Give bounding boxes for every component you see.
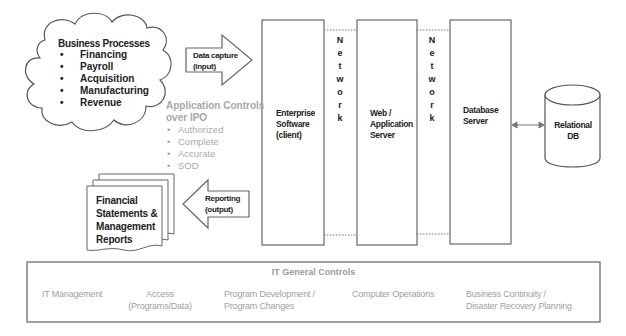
network-letter: t: [334, 60, 346, 73]
relational-db-label: Relational DB: [545, 120, 601, 142]
reports-line: Reports: [96, 233, 158, 246]
network-letter: w: [334, 73, 346, 86]
list-item: Payroll: [58, 61, 150, 73]
business-processes-list: Financing Payroll Acquisition Manufactur…: [58, 49, 150, 109]
reports-label: Financial Statements & Management Report…: [96, 194, 158, 246]
database-server-box: [450, 20, 511, 244]
application-controls: Application Controls over IPO Authorized…: [166, 100, 264, 172]
list-item: Revenue: [58, 97, 150, 109]
network-label-2: N e t w o r k: [426, 34, 438, 125]
tier-label-line: (client): [276, 130, 315, 141]
itgc-item-line: Access: [120, 288, 200, 300]
enterprise-software-label: Enterprise Software (client): [276, 108, 315, 141]
tier-label-line: Web /: [370, 108, 413, 119]
network-letter: k: [426, 112, 438, 125]
itgc-item-program-development: Program Development / Program Changes: [224, 288, 315, 312]
db-label-line: DB: [545, 131, 601, 142]
business-processes-title: Business Processes: [58, 38, 150, 49]
itgc-item-line: Business Continuity /: [466, 288, 572, 300]
network-letter: o: [426, 86, 438, 99]
reports-line: Statements &: [96, 207, 158, 220]
reports-line: Financial: [96, 194, 158, 207]
network-letter: N: [334, 34, 346, 47]
tier-label-line: Application: [370, 119, 413, 130]
network-letter: w: [426, 73, 438, 86]
tier-label-line: Server: [370, 130, 413, 141]
network-letter: N: [426, 34, 438, 47]
network-letter: r: [426, 99, 438, 112]
itgc-item-access: Access (Programs/Data): [120, 288, 200, 312]
application-controls-subtitle: over IPO: [166, 112, 264, 124]
itgc-item-line: IT Management: [42, 288, 102, 300]
database-server-label: Database Server: [463, 105, 498, 127]
itgc-item-line: Disaster Recovery Planning: [466, 300, 572, 312]
list-item: SOD: [166, 160, 264, 172]
it-general-controls-title: IT General Controls: [27, 267, 600, 277]
db-label-line: Relational: [545, 120, 601, 131]
tier-label-line: Enterprise: [276, 108, 315, 119]
reporting-label: Reporting (output): [205, 193, 240, 215]
reporting-line1: Reporting: [205, 193, 240, 204]
application-controls-title: Application Controls: [166, 100, 264, 112]
list-item: Manufacturing: [58, 85, 150, 97]
reporting-line2: (output): [205, 204, 240, 215]
data-capture-line1: Data capture: [193, 50, 238, 61]
tier-label-line: Software: [276, 119, 315, 130]
network-label-1: N e t w o r k: [334, 34, 346, 125]
reports-line: Management: [96, 220, 158, 233]
itgc-item-line: Program Development /: [224, 288, 315, 300]
itgc-item-business-continuity: Business Continuity / Disaster Recovery …: [466, 288, 572, 312]
tier-label-line: Server: [463, 116, 498, 127]
itgc-item-it-management: IT Management: [42, 288, 102, 300]
network-letter: r: [334, 99, 346, 112]
list-item: Authorized: [166, 124, 264, 136]
itgc-item-computer-operations: Computer Operations: [352, 288, 434, 300]
network-letter: o: [334, 86, 346, 99]
network-letter: k: [334, 112, 346, 125]
db-connection-arrow: [512, 122, 544, 128]
tier-label-line: Database: [463, 105, 498, 116]
data-capture-line2: (input): [193, 61, 238, 72]
business-processes: Business Processes Financing Payroll Acq…: [58, 38, 150, 109]
itgc-item-line: Computer Operations: [352, 288, 434, 300]
list-item: Acquisition: [58, 73, 150, 85]
network-letter: t: [426, 60, 438, 73]
web-application-server-label: Web / Application Server: [370, 108, 413, 141]
data-capture-label: Data capture (input): [193, 50, 238, 72]
network-letter: e: [426, 47, 438, 60]
network-letter: e: [334, 47, 346, 60]
list-item: Accurate: [166, 148, 264, 160]
list-item: Financing: [58, 49, 150, 61]
itgc-item-line: (Programs/Data): [120, 300, 200, 312]
list-item: Complete: [166, 136, 264, 148]
itgc-item-line: Program Changes: [224, 300, 315, 312]
application-controls-list: Authorized Complete Accurate SOD: [166, 124, 264, 172]
